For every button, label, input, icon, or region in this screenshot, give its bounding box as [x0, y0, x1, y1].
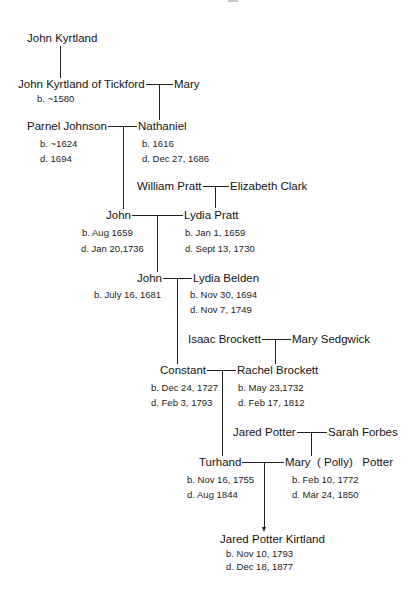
person-john-kyrtland: John Kyrtland — [26, 32, 98, 45]
marriage-line — [103, 126, 139, 127]
birth-date: b. ~1624 — [40, 138, 77, 149]
birth-date: b. ~1580 — [37, 93, 74, 104]
marriage-line — [238, 462, 286, 463]
death-date: d. Dec 18, 1877 — [226, 561, 293, 572]
person-jared-potter: Jared Potter — [232, 426, 297, 439]
death-date: d. Jan 20,1736 — [81, 243, 144, 254]
person-mary-polly-potter: Mary ( Polly) Potter — [284, 456, 394, 469]
person-turhand: Turhand — [198, 456, 242, 469]
arrow-down-icon — [262, 527, 266, 532]
death-date: d. Sept 13, 1730 — [185, 243, 255, 254]
person-mary: Mary — [173, 78, 201, 91]
birth-date: b. Nov 16, 1755 — [187, 474, 254, 485]
person-lydia-pratt: Lydia Pratt — [183, 209, 240, 222]
death-date: d. Nov 7, 1749 — [190, 304, 252, 315]
birth-date: b. May 23,1732 — [238, 382, 304, 393]
birth-date: b. Nov 30, 1694 — [190, 289, 257, 300]
death-date: d. 1694 — [40, 153, 72, 164]
person-john-kyrtland-of-tickford: John Kyrtland of Tickford — [17, 78, 146, 91]
person-elizabeth-clark: Elizabeth Clark — [229, 180, 308, 193]
marriage-line — [203, 370, 238, 371]
person-mary-sedgwick: Mary Sedgwick — [291, 333, 371, 346]
scan-artifact — [228, 0, 238, 2]
descent-line — [157, 215, 158, 279]
death-date: d. Mar 24, 1850 — [292, 489, 359, 500]
death-date: d. Aug 1844 — [187, 489, 238, 500]
person-john: John — [136, 272, 163, 285]
person-isaac-brockett: Isaac Brockett — [187, 333, 262, 346]
birth-date: b. July 16, 1681 — [94, 289, 161, 300]
birth-date: b. 1616 — [142, 138, 174, 149]
person-rachel-brockett: Rachel Brockett — [236, 364, 319, 377]
person-constant: Constant — [159, 364, 207, 377]
person-sarah-forbes: Sarah Forbes — [327, 426, 399, 439]
person-john: John — [105, 209, 132, 222]
birth-date: b. Feb 10, 1772 — [292, 474, 359, 485]
descent-line — [60, 46, 61, 78]
person-jared-potter-kirtland: Jared Potter Kirtland — [219, 533, 326, 546]
birth-date: b. Nov 10, 1793 — [226, 548, 293, 559]
person-parnel-johnson: Parnel Johnson — [26, 120, 108, 133]
birth-date: b. Dec 24, 1727 — [151, 382, 218, 393]
descent-line — [159, 84, 160, 120]
death-date: d. Dec 27, 1686 — [142, 153, 209, 164]
descent-line — [177, 278, 178, 371]
person-lydia-belden: Lydia Belden — [192, 272, 260, 285]
descent-line — [123, 126, 124, 209]
descent-line — [215, 186, 216, 208]
death-date: d. Feb 17, 1812 — [238, 397, 305, 408]
person-nathaniel: Nathaniel — [137, 120, 188, 133]
descent-line — [222, 370, 223, 463]
death-date: d. Feb 3, 1793 — [151, 397, 212, 408]
descent-arrow-line — [264, 462, 265, 528]
family-tree-diagram: John Kyrtland John Kyrtland of Tickford … — [0, 0, 415, 591]
birth-date: b. Jan 1, 1659 — [185, 227, 245, 238]
birth-date: b. Aug 1659 — [82, 227, 133, 238]
person-william-pratt: William Pratt — [136, 180, 203, 193]
